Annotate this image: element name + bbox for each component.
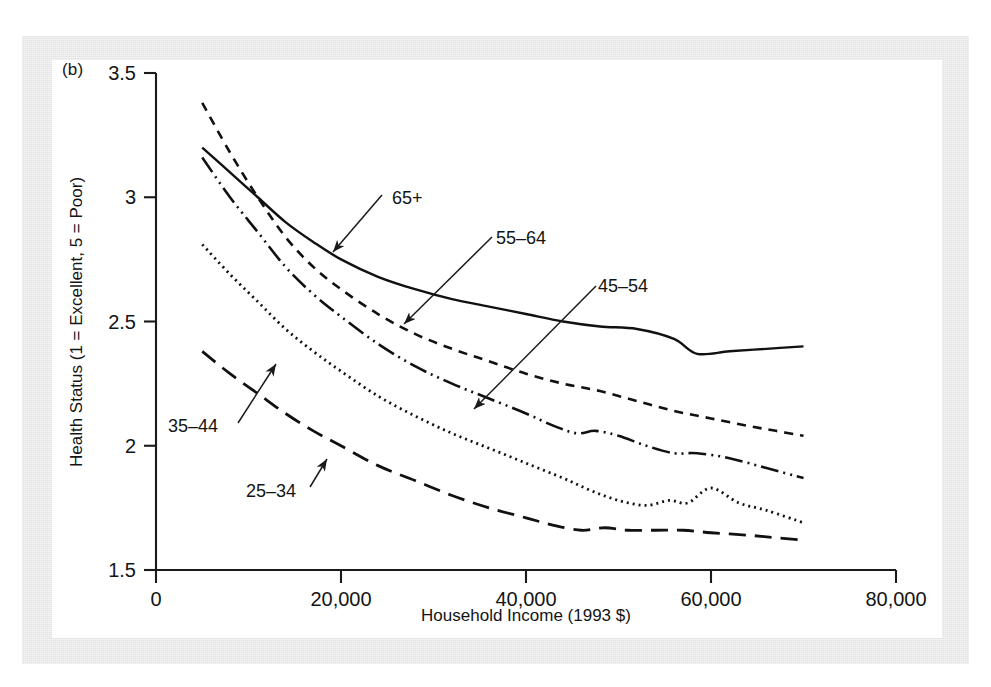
series-line-65+ bbox=[202, 148, 803, 355]
annotation-45-54-label: 45–54 bbox=[598, 276, 648, 296]
y-tick-label: 3 bbox=[125, 186, 136, 208]
x-tick-label: 60,000 bbox=[680, 588, 741, 610]
y-tick-label: 1.5 bbox=[108, 559, 136, 581]
chart-canvas: 1.522.533.5 Health Status (1 = Excellent… bbox=[0, 0, 991, 687]
series-line-55-64 bbox=[202, 103, 803, 436]
annotation-25-34-leader bbox=[310, 459, 327, 487]
x-tick-label: 20,000 bbox=[310, 588, 371, 610]
annotation-65plus-leader bbox=[333, 195, 382, 252]
y-axis-title: Health Status (1 = Excellent, 5 = Poor) bbox=[67, 177, 86, 467]
y-tick-labels: 1.522.533.5 bbox=[108, 62, 136, 581]
y-tick-marks bbox=[144, 73, 156, 570]
figure-page: (b) 1.522.533.5 Health Status (1 = Excel… bbox=[0, 0, 991, 687]
x-tick-marks bbox=[156, 570, 896, 583]
y-tick-label: 2 bbox=[125, 435, 136, 457]
x-tick-label: 80,000 bbox=[865, 588, 926, 610]
x-axis-title: Household Income (1993 $) bbox=[421, 606, 631, 625]
annotation-35-44-leader bbox=[238, 364, 276, 423]
y-tick-label: 2.5 bbox=[108, 311, 136, 333]
axis-x: 020,00040,00060,00080,000 Household Inco… bbox=[150, 570, 926, 625]
annotation-layer: 65+55–6445–5435–4425–34 bbox=[168, 188, 648, 501]
y-tick-label: 3.5 bbox=[108, 62, 136, 84]
series-layer bbox=[202, 103, 803, 540]
annotation-55-64-leader bbox=[404, 237, 492, 324]
series-line-45-54 bbox=[202, 157, 803, 478]
annotation-65plus-label: 65+ bbox=[392, 188, 423, 208]
annotation-55-64-label: 55–64 bbox=[496, 228, 546, 248]
x-tick-label: 0 bbox=[150, 588, 161, 610]
annotation-45-54-leader bbox=[474, 286, 596, 409]
annotation-25-34-label: 25–34 bbox=[246, 481, 296, 501]
axis-y: 1.522.533.5 Health Status (1 = Excellent… bbox=[67, 62, 156, 581]
annotation-35-44-label: 35–44 bbox=[168, 416, 218, 436]
